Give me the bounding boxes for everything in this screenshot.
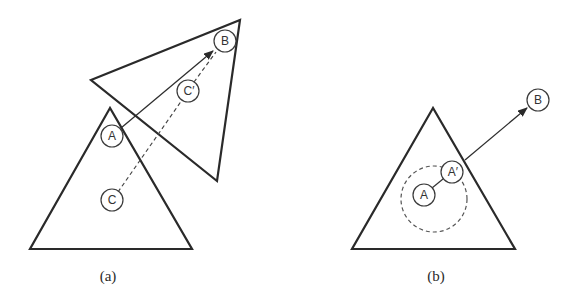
node-a-label: A [420, 188, 428, 202]
node-b: B [214, 30, 236, 52]
node-a: A [413, 184, 435, 206]
node-c-prime: C′ [177, 80, 199, 102]
node-c-prime-label: C′ [184, 84, 196, 98]
node-b: B [527, 89, 549, 111]
panel-b: A A′ B (b) [352, 89, 549, 285]
node-a-prime-label: A′ [448, 165, 459, 179]
caption-b: (b) [427, 268, 445, 285]
node-b-label: B [221, 34, 229, 48]
node-a-label: A [108, 129, 116, 143]
panel-a: B A C C′ (a) [30, 20, 240, 285]
link-a-to-a-prime [432, 179, 443, 188]
node-b-label: B [534, 93, 542, 107]
node-a-prime: A′ [441, 161, 463, 183]
arrow-to-b [465, 108, 527, 160]
node-c-label: C [108, 193, 117, 207]
node-c: C [101, 189, 123, 211]
node-a: A [101, 125, 123, 147]
triangle [352, 108, 515, 249]
caption-a: (a) [100, 268, 117, 285]
dashed-line-c-prime-to-b [194, 52, 216, 82]
diagram-canvas: B A C C′ (a) A A′ [0, 0, 575, 297]
